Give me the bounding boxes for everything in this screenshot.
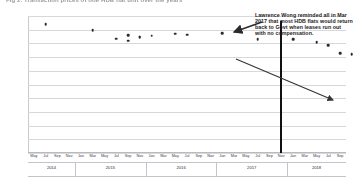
x-month-label: Nov (207, 154, 214, 159)
annotation-text: Lawrence Wong reminded all in Mar 2017 t… (255, 12, 353, 36)
gridline (28, 57, 346, 58)
data-point (327, 44, 330, 47)
data-point (292, 38, 295, 41)
data-point (150, 35, 153, 38)
x-month-label: Sep (125, 154, 132, 159)
data-point (315, 41, 318, 44)
x-month-label: Jan (219, 154, 225, 159)
x-month-label: Sep (266, 154, 273, 159)
x-month-label: May (242, 154, 249, 159)
x-month-label: Jul (185, 154, 190, 159)
x-month-label: Jan (149, 154, 155, 159)
data-point (174, 33, 177, 36)
gridline (28, 71, 346, 72)
x-month-label: May (101, 154, 108, 159)
x-year-label: 2018 (312, 165, 321, 170)
gridline (28, 112, 346, 113)
x-year-label: 2017 (247, 165, 256, 170)
x-month-label: Jul (43, 154, 48, 159)
data-point (44, 23, 47, 26)
x-month-label: Nov (278, 154, 285, 159)
x-month-label: Mar (231, 154, 238, 159)
x-month-label: Sep (337, 154, 344, 159)
x-month-label: May (30, 154, 37, 159)
x-month-label: Nov (136, 154, 143, 159)
x-year-separator (75, 162, 76, 177)
figure-title: Fig 2. Transaction prices of one HDB fla… (6, 0, 182, 3)
x-month-label: Mar (89, 154, 96, 159)
event-marker-line (280, 21, 282, 153)
x-year-label: 2014 (47, 165, 56, 170)
gridline (28, 126, 346, 127)
x-year-separator (146, 162, 147, 177)
x-month-label: Mar (160, 154, 167, 159)
data-point (221, 32, 224, 35)
x-month-label: Jan (78, 154, 84, 159)
x-month-label: Jul (255, 154, 260, 159)
x-month-label: Mar (301, 154, 308, 159)
x-month-label: Sep (195, 154, 202, 159)
data-point (256, 38, 259, 41)
gridline (28, 139, 346, 140)
x-year-label: 2015 (106, 165, 115, 170)
data-point (139, 36, 142, 39)
x-month-label: Jan (290, 154, 296, 159)
data-point (115, 37, 118, 40)
data-point (127, 34, 130, 37)
chart-figure: Fig 2. Transaction prices of one HDB fla… (0, 0, 354, 177)
x-axis-band: MayJulSepNovJanMarMayJulSepNovJanMarMayJ… (28, 153, 346, 177)
gridline (28, 98, 346, 99)
data-point (91, 29, 94, 32)
data-point (339, 52, 342, 55)
x-month-label: Jul (326, 154, 331, 159)
data-point (186, 33, 189, 36)
gridline (28, 43, 346, 44)
gridline (28, 85, 346, 86)
x-year-separator (287, 162, 288, 177)
x-month-label: Nov (66, 154, 73, 159)
x-month-label: Sep (54, 154, 61, 159)
data-point (351, 53, 354, 56)
x-year-label: 2016 (176, 165, 185, 170)
x-month-label: May (313, 154, 320, 159)
x-month-label: May (172, 154, 179, 159)
data-point (127, 39, 130, 42)
plot-area: 260,000250,000240,000230,000220,000210,0… (28, 16, 346, 153)
x-month-label: Jul (114, 154, 119, 159)
x-year-separator (216, 162, 217, 177)
